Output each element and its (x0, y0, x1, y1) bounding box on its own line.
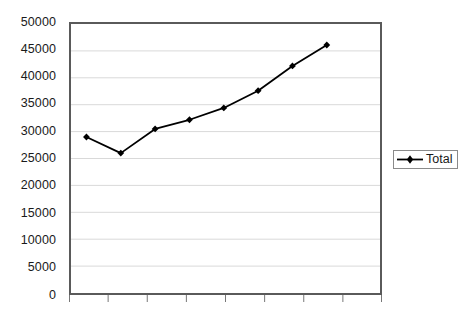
line-chart: 5000045000400003500030000250002000015000… (0, 0, 470, 318)
y-axis-tick-label: 50000 (0, 16, 62, 29)
legend-marker-icon (397, 154, 423, 165)
series-markers-total (83, 42, 330, 157)
y-axis-tick-label: 20000 (0, 179, 62, 192)
y-axis-tick-label: 25000 (0, 152, 62, 165)
y-axis-tick-label: 15000 (0, 207, 62, 220)
data-point-marker (220, 105, 227, 112)
y-axis-tick-label: 30000 (0, 125, 62, 138)
y-axis-tick-label: 45000 (0, 43, 62, 56)
y-axis-tick-label: 5000 (0, 261, 62, 274)
y-axis: 5000045000400003500030000250002000015000… (0, 0, 62, 318)
x-axis (69, 295, 384, 307)
series-line-total (86, 45, 326, 153)
plot-canvas (71, 24, 380, 293)
gridlines (71, 51, 380, 266)
y-axis-tick-label: 40000 (0, 70, 62, 83)
legend[interactable]: Total (393, 150, 458, 169)
y-axis-tick-label: 10000 (0, 234, 62, 247)
plot-area (69, 22, 382, 295)
y-axis-tick-label: 0 (0, 289, 62, 302)
data-point-marker (186, 116, 193, 123)
legend-label-total: Total (426, 153, 452, 166)
data-point-marker (83, 134, 90, 141)
y-axis-tick-label: 35000 (0, 97, 62, 110)
